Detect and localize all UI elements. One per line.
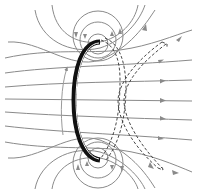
arrow-down-icon (83, 34, 87, 39)
arrow-right-icon (158, 60, 164, 64)
arrow-right-icon (176, 36, 182, 42)
field-line (52, 158, 138, 189)
field-line (5, 60, 192, 73)
arrow-down-icon (74, 32, 78, 38)
arrow-up-icon (76, 164, 80, 170)
diagram-canvas (0, 0, 197, 189)
arrow-down-icon (148, 162, 154, 169)
arrow-right-icon (160, 79, 166, 84)
arrow-right-icon (172, 170, 179, 175)
arrow-up-icon (118, 28, 122, 34)
arrow-up-icon (110, 31, 114, 36)
arrow-right-icon (160, 116, 166, 121)
current-arrow-icon (61, 68, 67, 135)
field-line (52, 5, 138, 42)
arrow-right-icon (160, 98, 166, 103)
magnetic-field-loop-diagram (0, 0, 197, 189)
